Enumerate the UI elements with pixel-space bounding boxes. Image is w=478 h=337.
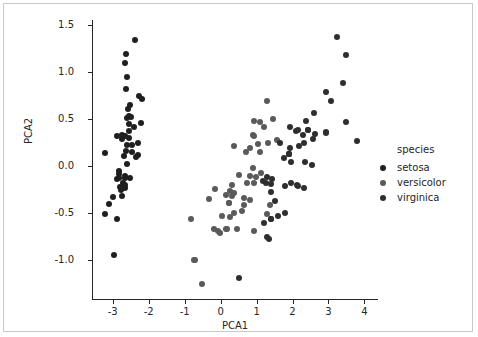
- scatter-point-setosa: [124, 161, 130, 167]
- y-tick-mark: [88, 260, 92, 261]
- y-tick-label: 1.0: [34, 66, 74, 78]
- scatter-point-versicolor: [257, 149, 263, 155]
- scatter-point-versicolor: [236, 172, 242, 178]
- scatter-point-versicolor: [231, 210, 237, 216]
- legend-item-setosa: setosa: [374, 160, 470, 175]
- image-frame: -3-2-101234 1.51.00.50.0-0.5-1.0 PCA1 PC…: [3, 3, 473, 332]
- y-tick-label: -0.5: [34, 207, 74, 219]
- scatter-point-setosa: [119, 193, 125, 199]
- legend-label: setosa: [397, 162, 430, 174]
- scatter-point-versicolor: [234, 226, 240, 232]
- scatter-point-virginica: [287, 124, 293, 130]
- x-tick-mark: [221, 300, 222, 304]
- scatter-point-versicolor: [250, 132, 256, 138]
- scatter-point-versicolor: [211, 226, 217, 232]
- x-tick-label: -3: [93, 306, 133, 318]
- scatter-point-setosa: [126, 135, 132, 141]
- scatter-point-versicolor: [258, 170, 264, 176]
- scatter-point-versicolor: [264, 98, 270, 104]
- scatter-point-virginica: [301, 140, 307, 146]
- x-tick-mark: [293, 300, 294, 304]
- y-tick-mark: [88, 72, 92, 73]
- scatter-point-versicolor: [247, 145, 253, 151]
- scatter-point-virginica: [309, 162, 315, 168]
- y-tick-label: 0.5: [34, 113, 74, 125]
- scatter-point-versicolor: [229, 193, 235, 199]
- scatter-point-setosa: [116, 168, 122, 174]
- scatter-point-virginica: [328, 98, 334, 104]
- y-axis-label: PCA2: [23, 118, 34, 144]
- x-axis-label: PCA1: [92, 320, 378, 331]
- x-axis-spine: [92, 299, 378, 300]
- legend-item-versicolor: versicolor: [374, 175, 470, 190]
- scatter-point-virginica: [310, 136, 316, 142]
- legend-item-virginica: virginica: [374, 190, 470, 205]
- y-tick-label: -1.0: [34, 254, 74, 266]
- scatter-point-setosa: [133, 154, 139, 160]
- scatter-point-versicolor: [212, 186, 218, 192]
- x-tick-label: -2: [129, 306, 169, 318]
- scatter-point-versicolor: [231, 143, 237, 149]
- scatter-point-setosa: [102, 211, 108, 217]
- x-tick-mark: [328, 300, 329, 304]
- x-tick-mark: [257, 300, 258, 304]
- scatter-point-versicolor: [255, 141, 261, 147]
- x-tick-mark: [185, 300, 186, 304]
- x-tick-label: 4: [344, 306, 384, 318]
- y-tick-mark: [88, 119, 92, 120]
- x-tick-mark: [149, 300, 150, 304]
- scatter-point-virginica: [268, 189, 274, 195]
- screenshot-root: -3-2-101234 1.51.00.50.0-0.5-1.0 PCA1 PC…: [0, 0, 478, 337]
- scatter-point-setosa: [125, 106, 131, 112]
- scatter-point-virginica: [288, 159, 294, 165]
- x-tick-mark: [113, 300, 114, 304]
- y-tick-mark: [88, 166, 92, 167]
- legend-label: virginica: [397, 192, 440, 204]
- y-tick-label: 0.0: [34, 160, 74, 172]
- scatter-point-setosa: [106, 201, 112, 207]
- x-tick-label: 2: [273, 306, 313, 318]
- legend-marker-icon: [380, 165, 386, 171]
- x-tick-label: 3: [308, 306, 348, 318]
- scatter-point-setosa: [132, 37, 138, 43]
- scatter-point-virginica: [260, 178, 266, 184]
- scatter-point-versicolor: [251, 180, 257, 186]
- x-tick-label: -1: [165, 306, 205, 318]
- scatter-point-virginica: [261, 220, 267, 226]
- scatter-point-virginica: [334, 34, 340, 40]
- scatter-point-setosa: [135, 140, 141, 146]
- scatter-point-versicolor: [239, 208, 245, 214]
- scatter-point-virginica: [340, 80, 346, 86]
- scatter-point-setosa: [111, 252, 117, 258]
- scatter-point-setosa: [128, 114, 134, 120]
- y-tick-mark: [88, 25, 92, 26]
- scatter-point-setosa: [116, 175, 122, 181]
- scatter-point-setosa: [114, 216, 120, 222]
- scatter-point-virginica: [343, 52, 349, 58]
- legend: species setosaversicolorvirginica: [374, 144, 470, 205]
- legend-title: species: [397, 144, 470, 156]
- scatter-point-setosa: [118, 187, 124, 193]
- scatter-point-virginica: [302, 159, 308, 165]
- x-tick-mark: [364, 300, 365, 304]
- legend-entries: setosaversicolorvirginica: [374, 160, 470, 205]
- x-tick-label: 0: [201, 306, 241, 318]
- x-tick-label: 1: [237, 306, 277, 318]
- scatter-point-setosa: [139, 96, 145, 102]
- scatter-point-virginica: [323, 89, 329, 95]
- legend-marker-icon: [380, 195, 386, 201]
- scatter-point-setosa: [123, 51, 129, 57]
- y-tick-label: 1.5: [34, 19, 74, 31]
- scatter-point-versicolor: [244, 180, 250, 186]
- scatter-point-virginica: [305, 127, 311, 133]
- scatter-point-virginica: [300, 132, 306, 138]
- scatter-point-versicolor: [247, 173, 253, 179]
- scatter-point-versicolor: [270, 116, 276, 122]
- legend-marker-icon: [380, 180, 386, 186]
- legend-label: versicolor: [397, 177, 446, 189]
- y-tick-mark: [88, 213, 92, 214]
- scatter-point-virginica: [282, 210, 288, 216]
